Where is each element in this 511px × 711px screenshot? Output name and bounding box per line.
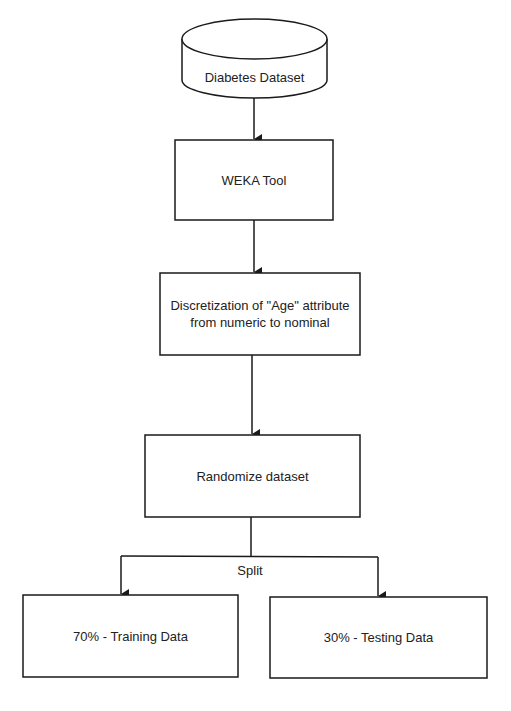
- testing-label: 30% - Testing Data: [270, 597, 487, 678]
- split-connector: [121, 517, 378, 596]
- split-label: Split: [220, 561, 280, 579]
- dataset-label: Diabetes Dataset: [182, 66, 327, 88]
- discretize-label: Discretization of "Age" attribute from n…: [166, 273, 354, 355]
- weka-label: WEKA Tool: [175, 140, 333, 220]
- randomize-label: Randomize dataset: [145, 435, 360, 517]
- training-label: 70% - Training Data: [23, 595, 238, 677]
